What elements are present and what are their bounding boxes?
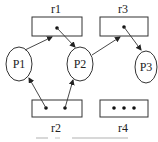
instance-dot	[132, 106, 136, 110]
process-label-p3: P3	[140, 60, 153, 74]
instance-dot	[112, 106, 116, 110]
process-label-p1: P1	[13, 57, 26, 71]
resource-r1: r1	[32, 2, 82, 36]
caption-blur	[55, 137, 60, 139]
process-p1: P1	[6, 47, 32, 81]
resource-r4: r4	[100, 100, 148, 135]
process-label-p2: P2	[74, 57, 87, 71]
edge-p2-to-r3	[92, 37, 120, 55]
process-p3: P3	[135, 51, 157, 83]
resource-box-r2	[32, 100, 82, 117]
resource-r3: r3	[100, 2, 148, 36]
resource-label-r4: r4	[118, 121, 128, 135]
resource-label-r1: r1	[51, 2, 61, 16]
caption-blur	[36, 137, 48, 139]
resource-label-r2: r2	[51, 121, 61, 135]
resource-label-r3: r3	[118, 2, 128, 16]
diagram-svg: r1 r3 P1 P2 P3 r2	[0, 0, 158, 142]
edge-p1-to-r1	[25, 37, 52, 50]
caption-blur	[72, 137, 128, 139]
process-p2: P2	[67, 47, 93, 81]
instance-dot	[122, 106, 126, 110]
resource-r2: r2	[32, 100, 82, 135]
resource-allocation-diagram: r1 r3 P1 P2 P3 r2	[0, 0, 158, 142]
